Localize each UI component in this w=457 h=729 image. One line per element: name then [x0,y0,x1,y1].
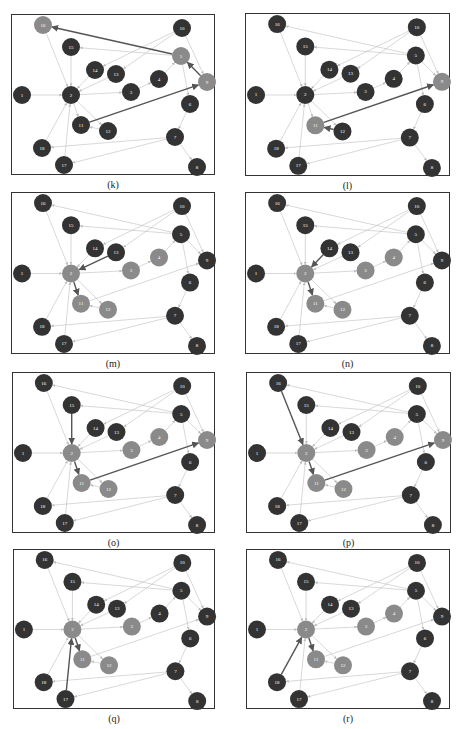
edge [299,104,304,157]
node-13: 13 [343,423,361,441]
highlighted-edge [324,127,334,129]
edge [314,92,356,94]
node-5: 5 [408,405,426,423]
node-4: 4 [385,605,403,623]
svg-text:18: 18 [275,680,281,685]
edge [418,600,424,630]
edge [314,226,407,234]
node-12: 12 [334,656,352,674]
graph-canvas: 123456789101112131415161718 [14,550,216,710]
node-16: 16 [269,374,287,392]
node-14: 14 [320,239,338,257]
edge [48,637,68,674]
panel-caption: (l) [245,180,450,191]
graph-frame: 123456789101112131415161718 [246,549,450,709]
node-10: 10 [173,197,191,215]
node-16: 16 [34,16,52,34]
svg-text:14: 14 [327,246,333,251]
node-11: 11 [307,474,325,492]
panel-m: 123456789101112131415161718(m) [11,192,215,372]
edge [73,318,167,342]
node-7: 7 [401,662,419,680]
svg-text:16: 16 [41,23,47,28]
svg-text:15: 15 [69,45,75,50]
node-5: 5 [172,225,190,243]
svg-text:11: 11 [79,301,84,306]
svg-text:14: 14 [327,67,333,72]
node-1: 1 [15,621,33,639]
svg-text:18: 18 [274,324,280,329]
svg-text:15: 15 [303,44,309,49]
node-8: 8 [423,692,441,710]
highlighted-edge [79,256,108,269]
edge [165,241,175,251]
highlighted-edge [75,638,79,651]
svg-text:16: 16 [42,557,48,562]
svg-text:15: 15 [304,403,310,408]
edge [65,104,70,156]
node-5: 5 [407,582,425,600]
node-13: 13 [107,423,125,441]
node-2: 2 [63,621,81,639]
panel-caption: (q) [13,713,215,724]
edge [338,31,409,66]
svg-text:11: 11 [79,123,84,128]
node-17: 17 [289,157,307,175]
node-18: 18 [268,497,286,515]
edge [314,47,407,55]
panel-l: 123456789101112131415161718(l) [245,13,450,194]
edge [314,271,356,273]
svg-text:10: 10 [415,560,421,565]
svg-text:11: 11 [79,481,84,486]
edge [80,271,122,273]
node-9: 9 [433,608,451,626]
svg-text:17: 17 [296,341,302,346]
edge [104,390,174,424]
edge [81,450,123,452]
node-8: 8 [188,516,206,534]
node-1: 1 [248,621,266,639]
node-8: 8 [188,158,206,176]
svg-text:18: 18 [41,680,47,685]
svg-text:15: 15 [303,223,309,228]
edge [78,435,89,447]
node-3: 3 [122,83,140,101]
svg-text:12: 12 [340,129,346,134]
node-16: 16 [36,551,54,569]
svg-text:11: 11 [314,657,319,662]
edge [103,210,174,244]
node-15: 15 [297,396,315,414]
node-17: 17 [290,514,308,532]
edge [338,210,409,244]
edge [81,612,109,625]
node-18: 18 [267,318,285,336]
panel-caption: (n) [245,358,450,369]
node-17: 17 [56,690,74,708]
graph-frame: 123456789101112131415161718 [245,192,450,354]
edge [124,568,175,603]
graph-frame: 123456789101112131415161718 [13,549,215,709]
node-15: 15 [62,38,80,56]
node-2: 2 [296,264,314,282]
graph-canvas: 123456789101112131415161718 [12,193,216,355]
graph-frame: 123456789101112131415161718 [246,372,451,533]
edge [180,323,191,339]
svg-text:13: 13 [114,250,120,255]
edge [79,611,90,623]
node-18: 18 [35,673,53,691]
node-6: 6 [416,95,434,113]
node-14: 14 [321,596,339,614]
highlighted-edge [74,282,78,295]
node-3: 3 [357,618,375,636]
edge [90,127,99,129]
edge [325,661,334,663]
node-7: 7 [401,129,419,147]
edge [314,436,343,449]
edge [281,461,301,498]
svg-text:11: 11 [314,481,319,486]
node-6: 6 [181,274,199,292]
graph-frame: 123456789101112131415161718 [11,14,215,175]
node-1: 1 [14,444,32,462]
node-6: 6 [181,629,199,647]
graph-canvas: 123456789101112131415161718 [246,14,451,177]
